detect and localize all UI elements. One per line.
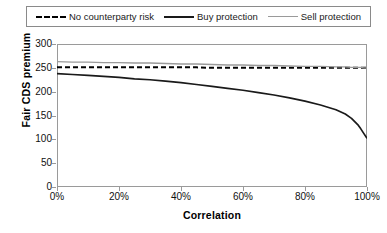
thick-solid-line-swatch xyxy=(164,13,194,21)
series-line-buy-protection xyxy=(57,74,367,139)
x-tick-label: 80% xyxy=(285,192,325,202)
x-tick-mark xyxy=(181,187,182,191)
y-tick-mark xyxy=(52,163,56,164)
x-tick-mark xyxy=(367,187,368,191)
x-tick-label: 100% xyxy=(347,192,387,202)
x-tick-label: 40% xyxy=(161,192,201,202)
x-tick-label: 20% xyxy=(99,192,139,202)
legend-label-sell-protection: Sell protection xyxy=(301,12,361,22)
x-tick-mark xyxy=(305,187,306,191)
x-axis-label: Correlation xyxy=(57,209,367,221)
x-tick-label: 0% xyxy=(37,192,77,202)
thin-solid-line-swatch xyxy=(268,13,298,21)
legend-label-no-counterparty-risk: No counterparty risk xyxy=(69,12,154,22)
y-tick-mark xyxy=(52,68,56,69)
y-tick-label: 50 xyxy=(28,158,52,168)
plot-lines xyxy=(57,44,367,187)
legend-label-buy-protection: Buy protection xyxy=(197,12,258,22)
y-tick-label: 300 xyxy=(28,39,52,49)
x-tick-mark xyxy=(57,187,58,191)
chart-figure: No counterparty risk Buy protection Sell… xyxy=(0,0,387,233)
x-tick-mark xyxy=(243,187,244,191)
y-tick-mark xyxy=(52,187,56,188)
y-tick-mark xyxy=(52,116,56,117)
y-tick-label: 200 xyxy=(28,87,52,97)
y-tick-mark xyxy=(52,139,56,140)
y-tick-label: 150 xyxy=(28,111,52,121)
x-tick-label: 60% xyxy=(223,192,263,202)
x-tick-mark xyxy=(119,187,120,191)
legend-item-buy-protection: Buy protection xyxy=(164,12,258,22)
legend-item-sell-protection: Sell protection xyxy=(268,12,361,22)
legend-item-no-counterparty-risk: No counterparty risk xyxy=(36,12,154,22)
y-tick-label: 100 xyxy=(28,134,52,144)
chart-legend: No counterparty risk Buy protection Sell… xyxy=(26,6,371,27)
y-tick-mark xyxy=(52,44,56,45)
y-tick-label: 0 xyxy=(28,182,52,192)
y-tick-label: 250 xyxy=(28,63,52,73)
y-tick-mark xyxy=(52,92,56,93)
